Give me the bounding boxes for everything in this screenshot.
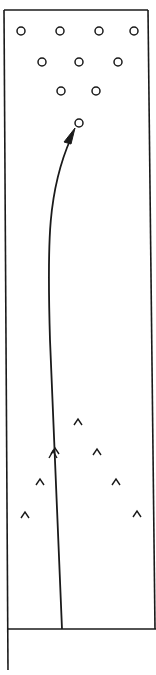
pin-icon: [38, 58, 46, 66]
path-caret-icon: [49, 451, 57, 458]
lane-right-edge: [148, 10, 155, 629]
pin-icon: [57, 87, 65, 95]
target-arrow-icon: [93, 449, 101, 455]
pin-icon: [130, 27, 138, 35]
target-arrow-icon: [133, 511, 141, 517]
ball-path-arrowhead-icon: [64, 128, 75, 144]
lane-outline: [4, 10, 156, 670]
target-arrow-icon: [74, 419, 82, 425]
lane-left-edge: [4, 10, 8, 670]
pin-icon: [75, 58, 83, 66]
ball-path-line: [49, 138, 71, 629]
pin-icon: [17, 27, 25, 35]
target-arrow-icon: [36, 479, 44, 485]
pin-icon: [56, 27, 64, 35]
target-arrow-icon: [112, 479, 120, 485]
pin-deck: [17, 27, 138, 127]
pin-icon: [92, 87, 100, 95]
pin-icon: [114, 58, 122, 66]
ball-path: [49, 128, 75, 629]
bowling-lane-diagram: [0, 0, 156, 675]
target-arrow-icon: [21, 512, 29, 518]
head-pin-icon: [75, 119, 83, 127]
pin-icon: [95, 27, 103, 35]
target-arrows: [21, 419, 141, 518]
